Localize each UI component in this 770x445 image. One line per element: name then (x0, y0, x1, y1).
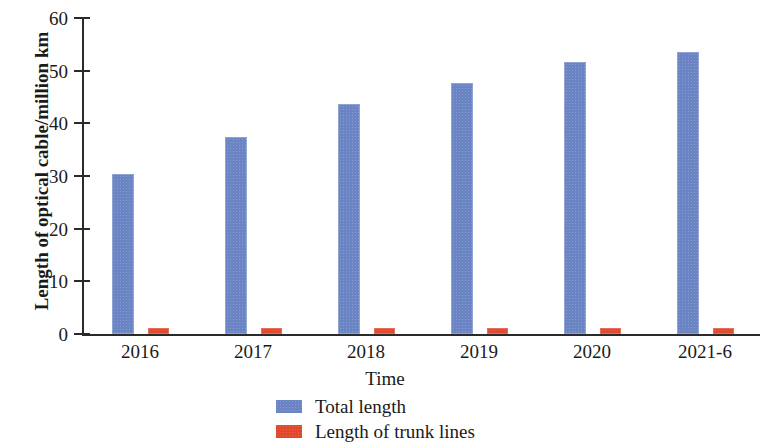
x-tick-label: 2018 (306, 341, 426, 363)
bar-trunk-lines (600, 328, 621, 334)
plot-area (82, 18, 760, 334)
y-tick-label: 50 (26, 61, 68, 80)
bar-total-length (677, 52, 699, 334)
bar-total-length (338, 104, 360, 334)
bar-total-length (112, 174, 134, 334)
y-tick-label: 30 (26, 167, 68, 186)
y-tick-label: 10 (26, 272, 68, 291)
x-tick-label: 2021-6 (645, 341, 765, 363)
y-tick-label: 60 (26, 9, 68, 28)
chart-legend: Total length Length of trunk lines (0, 394, 770, 444)
legend-label-total-length: Total length (315, 396, 406, 418)
bar-total-length (564, 62, 586, 334)
bar-trunk-lines (374, 328, 395, 334)
bar-trunk-lines (261, 328, 282, 334)
x-axis-line (82, 334, 760, 336)
x-tick-label: 2016 (80, 341, 200, 363)
legend-swatch-icon-trunk-lines (276, 425, 302, 438)
y-tick-label: 20 (26, 219, 68, 238)
bar-chart: Length of optical cable/million km 60504… (0, 0, 770, 445)
bar-total-length (451, 83, 473, 334)
x-tick-label: 2019 (419, 341, 539, 363)
bar-trunk-lines (487, 328, 508, 334)
bar-trunk-lines (713, 328, 734, 334)
bar-total-length (225, 137, 247, 334)
y-tick-label: 0 (26, 325, 68, 344)
x-tick-label: 2017 (193, 341, 313, 363)
legend-label-trunk-lines: Length of trunk lines (315, 421, 475, 443)
y-tick-label: 40 (26, 114, 68, 133)
bar-trunk-lines (148, 328, 169, 334)
x-axis-title: Time (0, 368, 770, 390)
legend-swatch-icon-total-length (276, 400, 302, 413)
x-tick-label: 2020 (532, 341, 652, 363)
legend-item-trunk-lines[interactable]: Length of trunk lines (0, 419, 770, 444)
legend-item-total-length[interactable]: Total length (0, 394, 770, 419)
